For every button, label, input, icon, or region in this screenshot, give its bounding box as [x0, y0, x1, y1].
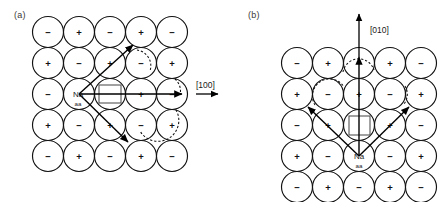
ion-charge-sign: −	[294, 182, 300, 193]
ion-charge-sign: −	[45, 151, 51, 162]
ion-charge-sign: −	[387, 89, 393, 100]
ion-charge-sign: −	[76, 58, 82, 69]
ion-charge-sign: −	[418, 182, 424, 193]
panel-a-lattice: − + − + − + − + − + − + − + − + − + − +	[0, 0, 224, 202]
na-label-subscript: aa	[75, 100, 82, 107]
ion-charge-sign: +	[45, 58, 51, 69]
ion-charge-sign: +	[76, 27, 82, 38]
ion-charge-sign: −	[294, 58, 300, 69]
ion-charge-sign: +	[387, 58, 393, 69]
ion-charge-sign: −	[294, 120, 300, 131]
na-label-text: Na	[73, 90, 84, 99]
ion-charge-sign: −	[45, 89, 51, 100]
panel-a: (a)	[0, 0, 224, 202]
ion-charge-sign: +	[169, 58, 175, 69]
ion-charge-sign: +	[138, 27, 144, 38]
ion-charge-sign: +	[45, 120, 51, 131]
na-label-subscript: aa	[356, 162, 363, 169]
ion-charge-sign: −	[418, 58, 424, 69]
ion-charge-sign: −	[418, 120, 424, 131]
ion-charge-sign: −	[325, 89, 331, 100]
ion-charge-sign: −	[138, 58, 144, 69]
ion-charge-sign: −	[107, 27, 113, 38]
ion-charge-sign: +	[325, 58, 331, 69]
ion-charge-sign: +	[169, 120, 175, 131]
na-label-text: Na	[354, 152, 365, 161]
panel-b-lattice: − + + − + − + − + − + + − + − − + − + −	[224, 0, 448, 202]
ion-charge-sign: −	[356, 182, 362, 193]
direction-label-100: [100]	[196, 80, 215, 90]
ion-charge-sign: −	[76, 120, 82, 131]
ion-charge-sign: −	[45, 27, 51, 38]
ion-charge-sign: +	[294, 151, 300, 162]
ion-charge-sign: +	[418, 151, 424, 162]
ion-charge-sign: +	[387, 182, 393, 193]
crystal-lattice-figure: (a)	[0, 0, 448, 202]
panel-b: (b)	[224, 0, 448, 202]
direction-label-010: [010]	[370, 25, 389, 35]
ion-charge-sign: −	[387, 151, 393, 162]
ion-charge-sign: −	[169, 151, 175, 162]
ion-charge-sign: −	[325, 151, 331, 162]
ion-charge-sign: +	[76, 151, 82, 162]
ion-charge-sign: −	[107, 151, 113, 162]
ion-charge-sign: +	[325, 182, 331, 193]
ion-charge-sign: +	[294, 89, 300, 100]
ion-charge-sign: −	[138, 120, 144, 131]
ion-charge-sign: +	[138, 151, 144, 162]
ion-charge-sign: +	[418, 89, 424, 100]
ion-charge-sign: −	[169, 27, 175, 38]
